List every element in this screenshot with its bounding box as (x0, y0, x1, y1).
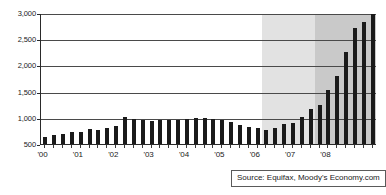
x-axis-tick (159, 145, 160, 148)
bar (52, 135, 56, 144)
x-axis-tick (124, 145, 125, 148)
bar-series (41, 14, 376, 144)
x-axis-tick (89, 145, 90, 148)
y-axis-tick-label: 3,000 (0, 10, 36, 18)
x-axis-tick (133, 145, 134, 148)
x-axis-year-label: '01 (73, 150, 83, 160)
bar (105, 128, 109, 144)
x-axis-tick (301, 145, 302, 148)
x-axis-tick (168, 145, 169, 148)
bar (158, 120, 162, 144)
bar (43, 137, 47, 144)
x-axis-tick (248, 145, 249, 148)
bar (123, 117, 127, 144)
x-axis-tick (327, 145, 328, 148)
x-axis-tick (354, 145, 355, 148)
bar (318, 105, 322, 144)
bar (185, 119, 189, 144)
bar (141, 120, 145, 144)
x-axis-tick (310, 145, 311, 148)
x-axis-tick (186, 145, 187, 148)
x-axis-tick (177, 145, 178, 148)
x-axis-tick (292, 145, 293, 148)
x-axis-tick (44, 145, 45, 148)
x-axis-tick (239, 145, 240, 148)
x-axis-tick (115, 145, 116, 148)
bar (203, 118, 207, 144)
x-axis-year-label: '04 (179, 150, 189, 160)
bar (291, 123, 295, 144)
bar (167, 120, 171, 144)
x-axis-tick (71, 145, 72, 148)
bar (353, 28, 357, 144)
y-axis-tick-label: 1,500 (0, 89, 36, 97)
bar (238, 125, 242, 144)
bar (61, 134, 65, 144)
y-axis-tick-label: 1,000 (0, 115, 36, 123)
x-axis-year-label: '00 (37, 150, 47, 160)
bar (229, 122, 233, 144)
x-axis-tick (212, 145, 213, 148)
bar (273, 128, 277, 144)
x-axis-tick (195, 145, 196, 148)
x-axis-year-label: '07 (285, 150, 295, 160)
bar (79, 132, 83, 144)
bar (282, 124, 286, 144)
x-axis-tick (274, 145, 275, 148)
bar (211, 119, 215, 144)
y-axis-tick-label: 2,000 (0, 62, 36, 70)
x-axis-tick (142, 145, 143, 148)
x-axis-year-label: '06 (250, 150, 260, 160)
bar (326, 90, 330, 144)
x-axis-year-label: '03 (144, 150, 154, 160)
x-axis-tick (257, 145, 258, 148)
x-axis-tick (230, 145, 231, 148)
y-axis-tick-label: 2,500 (0, 36, 36, 44)
bar (256, 128, 260, 145)
x-axis-tick (372, 145, 373, 148)
bar (371, 14, 375, 144)
bar (300, 117, 304, 144)
bar (96, 130, 100, 144)
x-axis-tick (265, 145, 266, 148)
bar (247, 127, 251, 144)
x-axis-year-label: '05 (214, 150, 224, 160)
x-axis-tick (345, 145, 346, 148)
x-axis-ticks (40, 145, 376, 149)
x-axis-year-label: '02 (108, 150, 118, 160)
x-axis-tick (151, 145, 152, 148)
bar (309, 109, 313, 144)
bar (70, 132, 74, 144)
y-axis-tick-label: 500 (0, 141, 36, 149)
bar (150, 121, 154, 144)
bar (344, 52, 348, 144)
x-axis-tick (283, 145, 284, 148)
bar (176, 120, 180, 144)
x-axis-tick (363, 145, 364, 148)
plot-area (40, 14, 376, 145)
source-note: Source: Equifax, Moody's Economy.com (231, 170, 386, 187)
bar (114, 126, 118, 144)
x-axis-year-label: '08 (320, 150, 330, 160)
bar (264, 130, 268, 144)
x-axis-tick (97, 145, 98, 148)
x-axis-tick (106, 145, 107, 148)
x-axis-tick (204, 145, 205, 148)
bar (88, 129, 92, 144)
x-axis-labels: '00'01'02'03'04'05'06'07'08 (40, 150, 376, 162)
x-axis-tick (336, 145, 337, 148)
bar (194, 118, 198, 144)
x-axis-tick (53, 145, 54, 148)
y-axis: 3,0002,5002,0001,5001,000500 (0, 0, 36, 160)
x-axis-tick (319, 145, 320, 148)
bar (132, 119, 136, 144)
x-axis-tick (62, 145, 63, 148)
x-axis-tick (221, 145, 222, 148)
bar (220, 120, 224, 144)
x-axis-tick (80, 145, 81, 148)
bar (362, 22, 366, 144)
bar (335, 76, 339, 144)
